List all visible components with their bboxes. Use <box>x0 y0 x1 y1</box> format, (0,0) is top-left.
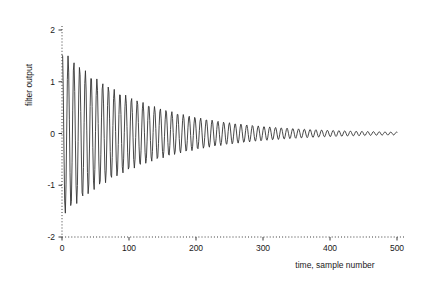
x-axis: 0100200300400500 <box>60 237 405 253</box>
chart-canvas: -2-1012 0100200300400500 time, sample nu… <box>0 0 432 285</box>
x-axis-tick-label: 100 <box>122 243 136 253</box>
y-axis-tick-label: -2 <box>47 232 55 242</box>
chart-figure: -2-1012 0100200300400500 time, sample nu… <box>0 0 432 285</box>
x-axis-title: time, sample number <box>295 260 375 270</box>
x-axis-tick-label: 0 <box>60 243 65 253</box>
x-axis-tick-label: 200 <box>189 243 203 253</box>
x-axis-ticks <box>62 237 397 241</box>
x-axis-tick-label: 500 <box>390 243 404 253</box>
y-axis-tick-label: 0 <box>50 129 55 139</box>
y-axis-tick-label: -1 <box>47 180 55 190</box>
y-axis-ticks <box>59 30 63 237</box>
x-axis-tick-label: 300 <box>256 243 270 253</box>
x-axis-tick-label: 400 <box>323 243 337 253</box>
y-axis: -2-1012 <box>47 25 62 242</box>
y-axis-tick-label: 1 <box>50 77 55 87</box>
x-axis-tick-labels: 0100200300400500 <box>60 243 405 253</box>
data-series-line <box>62 55 397 213</box>
y-axis-title: filter output <box>24 63 34 106</box>
y-axis-tick-label: 2 <box>50 25 55 35</box>
y-axis-tick-labels: -2-1012 <box>47 25 55 242</box>
